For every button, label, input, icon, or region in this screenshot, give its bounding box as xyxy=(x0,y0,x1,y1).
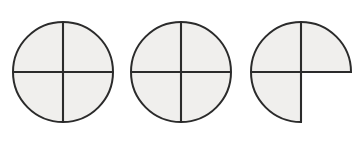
fraction-circles-canvas xyxy=(0,0,362,141)
fraction-circles-figure xyxy=(0,0,362,141)
circle-one-group xyxy=(13,22,113,122)
circle-two-group xyxy=(131,22,231,122)
circle-three-group xyxy=(251,22,351,122)
